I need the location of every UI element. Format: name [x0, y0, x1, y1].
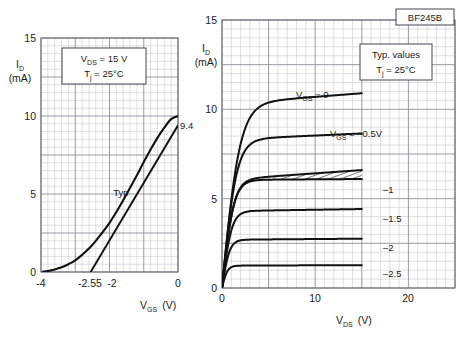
- idss-value-label: 9.4: [180, 120, 193, 131]
- left-yaxis-unit: (mA): [9, 72, 32, 84]
- svg-text:ID: ID: [202, 42, 210, 56]
- typ-curve-label: Typ: [113, 187, 128, 198]
- left-ytick-15: 15: [24, 32, 36, 44]
- curve-label-vgs-0: VGS = 0: [296, 89, 329, 102]
- right-xtick-10: 10: [309, 292, 321, 304]
- left-xtick-minus4: -4: [36, 277, 45, 289]
- curve-label-vgs-2p5: –2.5: [383, 268, 402, 279]
- output-curve-6: [222, 265, 362, 288]
- right-yaxis-subscript: D: [205, 49, 210, 56]
- output-characteristic-chart: 15 10 5 0 ID (mA) 0 10 20 VDS(V) BF245B: [195, 9, 455, 328]
- left-xtick-0: 0: [175, 277, 181, 289]
- curve-label-vgs-0p5: VGS = –0.5V: [330, 128, 383, 141]
- left-yaxis-title: ID (mA): [9, 58, 32, 84]
- right-ytick-5: 5: [211, 193, 217, 205]
- right-ytick-0: 0: [211, 282, 217, 294]
- right-xaxis-subscript: DS: [343, 321, 353, 328]
- svg-text:VDS(V): VDS(V): [336, 314, 372, 328]
- left-xaxis-symbol: V: [140, 299, 147, 311]
- jfet-characteristics-figure: 15 10 5 0 ID (mA) -4 -2.55 -2 0 VGS(V): [0, 0, 463, 340]
- curve-label-vgs-2: –2: [383, 242, 394, 253]
- figure-svg: 15 10 5 0 ID (mA) -4 -2.55 -2 0 VGS(V): [0, 0, 463, 340]
- right-xaxis-title: VDS(V): [336, 314, 372, 328]
- left-xaxis-subscript: GS: [147, 306, 157, 313]
- output-curve-4: [222, 209, 362, 288]
- right-conditions-box: Typ. values Tj = 25°C: [360, 44, 432, 80]
- part-number-box: BF245B: [396, 9, 454, 25]
- left-ytick-10: 10: [24, 110, 36, 122]
- right-xtick-0: 0: [219, 292, 225, 304]
- left-xaxis-title: VGS(V): [140, 299, 176, 313]
- left-xtick-minus2p55: -2.55: [78, 277, 102, 289]
- curve-label-vgs-1: –1: [383, 184, 394, 195]
- left-yaxis-subscript: D: [19, 65, 24, 72]
- right-ytick-10: 10: [205, 103, 217, 115]
- left-ytick-5: 5: [30, 188, 36, 200]
- right-curves: [222, 93, 362, 288]
- svg-text:ID: ID: [16, 58, 24, 72]
- transfer-characteristic-chart: 15 10 5 0 ID (mA) -4 -2.55 -2 0 VGS(V): [9, 32, 194, 313]
- left-xaxis-unit: (V): [162, 299, 176, 311]
- svg-text:VGS(V): VGS(V): [140, 299, 176, 313]
- right-yaxis-title: ID (mA): [195, 42, 218, 68]
- output-curve-2: [222, 179, 362, 288]
- left-xtick-minus2: -2: [107, 277, 116, 289]
- output-curve-5: [222, 239, 362, 288]
- part-number-label: BF245B: [408, 12, 442, 23]
- right-xaxis-unit: (V): [358, 314, 372, 326]
- left-ytick-0: 0: [30, 266, 36, 278]
- right-xaxis-symbol: V: [336, 314, 343, 326]
- right-yaxis-unit: (mA): [195, 56, 218, 68]
- right-xtick-20: 20: [402, 292, 414, 304]
- output-curve-0: [222, 93, 362, 288]
- right-condition-typvalues: Typ. values: [372, 49, 420, 60]
- curve-label-vgs-1p5: –1.5: [383, 213, 402, 224]
- right-ytick-15: 15: [205, 14, 217, 26]
- left-conditions-box: VDS = 15 V Tj = 25°C: [62, 48, 146, 84]
